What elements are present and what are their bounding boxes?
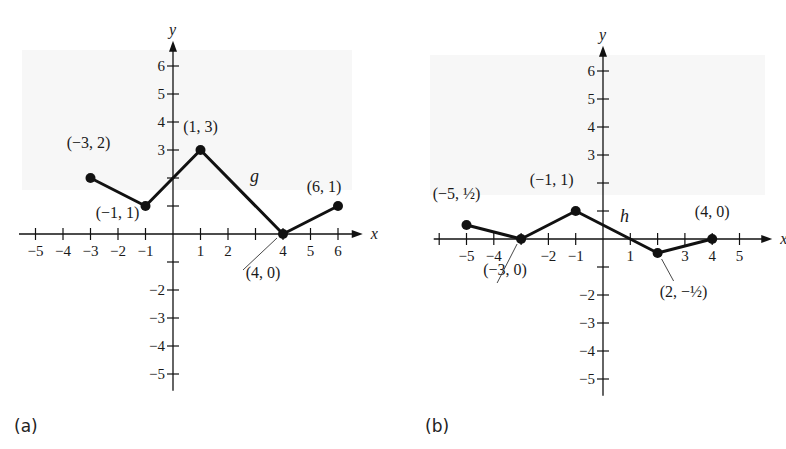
leader-line	[662, 259, 674, 281]
point-label: (4, 0)	[695, 203, 730, 221]
x-tick-label: 3	[681, 248, 689, 264]
y-tick-label: −2	[579, 287, 595, 303]
x-tick-label: 5	[307, 243, 315, 259]
point-label: (2, −½)	[660, 283, 708, 301]
point-label: (−3, 2)	[67, 134, 111, 152]
function-line	[467, 211, 713, 253]
y-tick-label: −3	[579, 315, 595, 331]
graph-b: xy−5−4−2−11345−5−4−3−23456(−5, ½)(−3, 0)…	[433, 26, 786, 396]
y-tick-label: −4	[149, 338, 165, 354]
data-point	[333, 201, 343, 211]
x-tick-label: 4	[708, 248, 716, 264]
data-point	[196, 145, 206, 155]
point-label: (4, 0)	[246, 264, 281, 282]
data-point	[653, 248, 663, 258]
x-tick-label: 1	[197, 243, 205, 259]
y-tick-label: 5	[158, 86, 166, 102]
y-axis-arrow-icon	[169, 41, 177, 52]
x-tick-label: 4	[279, 243, 287, 259]
y-tick-label: −5	[149, 366, 165, 382]
point-label: (−3, 0)	[483, 261, 527, 279]
y-tick-label: 6	[158, 58, 166, 74]
y-tick-label: −3	[149, 310, 165, 326]
function-name-label: h	[620, 206, 629, 226]
x-tick-label: −1	[138, 243, 154, 259]
y-axis-label: y	[167, 21, 177, 39]
data-point	[141, 201, 151, 211]
graph-a: xy−5−4−3−2−112456−5−4−3−23456(−3, 2)(−1,…	[19, 21, 378, 391]
y-tick-label: 3	[588, 147, 596, 163]
function-name-label: g	[250, 166, 259, 186]
y-tick-label: 3	[158, 142, 166, 158]
x-tick-label: −1	[568, 248, 584, 264]
point-label: (1, 3)	[183, 118, 218, 136]
data-point	[571, 206, 581, 216]
x-tick-label: −2	[540, 248, 556, 264]
function-line	[91, 150, 339, 234]
y-axis-arrow-icon	[599, 46, 607, 57]
point-label: (−1, 1)	[96, 204, 140, 222]
y-tick-label: 4	[158, 114, 166, 130]
x-tick-label: 5	[736, 248, 744, 264]
data-point	[516, 234, 526, 244]
x-tick-label: −3	[83, 243, 99, 259]
x-tick-label: −5	[28, 243, 44, 259]
x-axis-label: x	[370, 225, 378, 242]
x-tick-label: 2	[224, 243, 232, 259]
x-axis-arrow-icon	[761, 235, 772, 243]
point-label: (−5, ½)	[433, 185, 481, 203]
y-axis-label: y	[597, 26, 607, 44]
x-tick-label: −4	[55, 243, 71, 259]
x-tick-label: −2	[110, 243, 126, 259]
x-axis-arrow-icon	[352, 230, 363, 238]
data-point	[86, 173, 96, 183]
y-tick-label: −4	[579, 343, 595, 359]
x-tick-label: 1	[627, 248, 635, 264]
data-point	[462, 220, 472, 230]
y-tick-label: −5	[579, 371, 595, 387]
data-point	[278, 229, 288, 239]
point-label: (−1, 1)	[530, 171, 574, 189]
graph-a: xy−5−4−3−2−112456−5−4−3−23456(−3, 2)(−1,…	[0, 0, 786, 449]
y-tick-label: 5	[588, 91, 596, 107]
y-tick-label: −2	[149, 282, 165, 298]
panel-label-b: (b)	[425, 416, 449, 436]
panel-label-a: (a)	[14, 416, 38, 436]
figure: xy−5−4−3−2−112456−5−4−3−23456(−3, 2)(−1,…	[0, 0, 786, 449]
data-point	[707, 234, 717, 244]
y-tick-label: 6	[588, 63, 596, 79]
point-label: (6, 1)	[307, 178, 342, 196]
x-tick-label: 6	[334, 243, 342, 259]
x-axis-label: x	[779, 230, 786, 247]
y-tick-label: 4	[588, 119, 596, 135]
x-tick-label: −5	[459, 248, 475, 264]
